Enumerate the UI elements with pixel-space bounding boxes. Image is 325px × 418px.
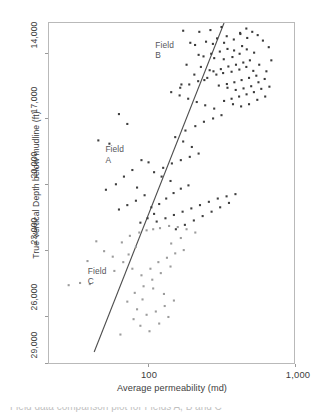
data-point <box>220 114 222 116</box>
data-point <box>200 66 202 68</box>
data-point <box>268 46 270 48</box>
y-tick-label-29000: 29,000 <box>29 322 39 368</box>
data-point <box>136 308 138 310</box>
data-point <box>129 235 131 237</box>
data-point <box>212 43 214 45</box>
data-point <box>112 256 114 258</box>
figure-caption-text: Field data comparison plot for Fields A,… <box>10 407 222 412</box>
data-point <box>199 204 201 206</box>
data-point <box>173 192 175 194</box>
data-point <box>239 53 241 55</box>
data-point <box>182 140 184 142</box>
data-point <box>169 265 171 267</box>
data-point <box>238 69 240 71</box>
data-point <box>250 85 252 87</box>
data-point <box>215 74 217 76</box>
data-point <box>149 268 151 270</box>
data-point <box>162 167 164 169</box>
data-point <box>194 231 196 233</box>
data-point <box>226 83 228 85</box>
data-point <box>264 95 266 97</box>
data-point <box>135 200 137 202</box>
data-point <box>68 284 70 286</box>
data-point <box>161 176 163 178</box>
data-point <box>147 161 149 163</box>
data-point <box>212 70 214 72</box>
data-point <box>175 228 177 230</box>
x-tick-label-1000: 1,000 <box>276 369 320 380</box>
data-point <box>190 207 192 209</box>
data-point <box>158 203 160 205</box>
data-point <box>252 70 254 72</box>
plot-area: Field B Field A Field C <box>48 22 295 364</box>
data-point <box>139 222 141 224</box>
data-point <box>232 103 234 105</box>
data-point <box>258 64 260 66</box>
data-point <box>170 91 172 93</box>
data-point <box>206 77 208 79</box>
data-point <box>241 79 243 81</box>
data-point <box>223 58 225 60</box>
data-point <box>246 48 248 50</box>
data-point <box>228 202 230 204</box>
data-point <box>177 226 179 228</box>
data-point <box>189 42 191 44</box>
data-point <box>173 299 175 301</box>
data-point <box>239 32 241 34</box>
data-point <box>198 31 200 33</box>
x-axis-title: Average permeability (md) <box>48 383 296 393</box>
y-tick-label-26000: 26,000 <box>29 274 39 320</box>
data-point <box>256 99 258 101</box>
data-point <box>240 105 242 107</box>
data-point <box>231 98 233 100</box>
data-point <box>194 125 196 127</box>
data-point <box>212 117 214 119</box>
field-b-annotation: Field B <box>155 40 174 61</box>
data-point <box>264 78 266 80</box>
series-points-field-b <box>180 26 272 108</box>
data-point <box>226 35 228 37</box>
regression-line <box>94 23 224 352</box>
data-point <box>167 316 169 318</box>
data-point <box>160 272 162 274</box>
data-point <box>257 81 259 83</box>
data-point <box>251 31 253 33</box>
data-point <box>182 30 184 32</box>
data-point <box>253 91 255 93</box>
data-point <box>246 37 248 39</box>
data-point <box>152 228 154 230</box>
data-point <box>113 270 115 272</box>
data-point <box>136 187 138 189</box>
data-point <box>150 206 152 208</box>
data-point <box>213 57 215 59</box>
data-point <box>248 77 250 79</box>
data-point <box>234 193 236 195</box>
data-point <box>191 146 193 148</box>
data-point <box>248 103 250 105</box>
data-point <box>219 51 221 53</box>
data-point <box>118 113 120 115</box>
data-point <box>169 180 171 182</box>
data-point <box>196 101 198 103</box>
figure-caption-clipped: Field data comparison plot for Fields A,… <box>0 407 325 418</box>
data-point <box>156 221 158 223</box>
x-tick-mark-1000 <box>295 364 296 367</box>
data-point <box>193 74 195 76</box>
data-point <box>198 153 200 155</box>
data-point <box>233 81 235 83</box>
data-point <box>255 75 257 77</box>
data-point <box>233 38 235 40</box>
data-point <box>158 323 160 325</box>
data-point <box>174 136 176 138</box>
data-point <box>211 211 213 213</box>
data-point <box>171 162 173 164</box>
data-point <box>180 83 182 85</box>
data-point <box>123 176 125 178</box>
data-point <box>223 42 225 44</box>
data-point <box>222 72 224 74</box>
data-point <box>163 293 165 295</box>
data-point <box>122 261 124 263</box>
data-point <box>242 87 244 89</box>
data-point <box>220 26 222 28</box>
y-tick-label-17000: 17,000 <box>29 77 39 123</box>
